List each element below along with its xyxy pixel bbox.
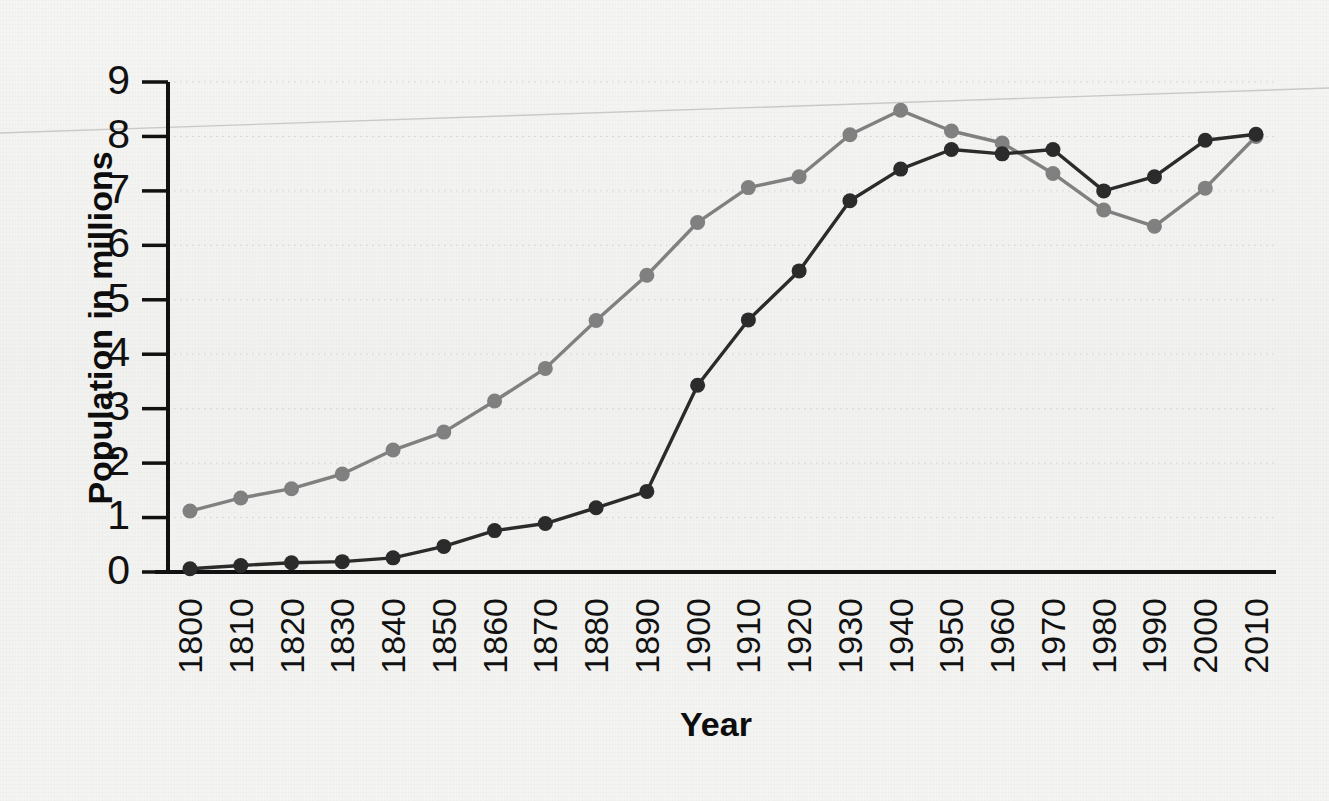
series-gray <box>183 103 1264 519</box>
x-tick-label: 1930 <box>831 598 869 674</box>
x-tick-label: 1960 <box>983 598 1021 674</box>
series-line <box>190 134 1256 568</box>
series-line <box>190 110 1256 511</box>
y-tick-label: 8 <box>107 111 130 157</box>
scan-artifact-icon <box>0 88 1329 133</box>
data-point-marker <box>1198 133 1213 148</box>
x-tick-label: 1900 <box>679 598 717 674</box>
population-line-chart: 0123456789 18001810182018301840185018601… <box>0 0 1329 801</box>
data-point-marker <box>233 558 248 573</box>
data-point-marker <box>538 516 553 531</box>
data-point-marker <box>690 215 705 230</box>
data-point-marker <box>792 169 807 184</box>
x-tick-label: 1840 <box>374 598 412 674</box>
data-point-marker <box>538 361 553 376</box>
data-point-marker <box>335 467 350 482</box>
data-point-marker <box>386 550 401 565</box>
data-point-marker <box>1147 219 1162 234</box>
data-point-marker <box>335 554 350 569</box>
y-axis-ticks <box>142 82 168 572</box>
data-point-marker <box>1045 166 1060 181</box>
x-tick-label: 1910 <box>729 598 767 674</box>
y-axis-title: Population in millions <box>81 151 119 504</box>
data-point-marker <box>741 312 756 327</box>
data-point-marker <box>589 500 604 515</box>
data-point-marker <box>995 146 1010 161</box>
x-tick-label: 1870 <box>526 598 564 674</box>
data-point-marker <box>639 268 654 283</box>
x-tick-label: 1830 <box>323 598 361 674</box>
data-point-marker <box>1198 181 1213 196</box>
x-tick-label: 1940 <box>882 598 920 674</box>
x-tick-label: 1920 <box>780 598 818 674</box>
data-point-marker <box>487 394 502 409</box>
x-tick-label: 1980 <box>1085 598 1123 674</box>
data-point-marker <box>842 193 857 208</box>
data-point-marker <box>1096 183 1111 198</box>
x-tick-label: 1950 <box>932 598 970 674</box>
data-point-marker <box>893 103 908 118</box>
data-point-marker <box>639 484 654 499</box>
data-point-marker <box>436 425 451 440</box>
x-axis-tick-labels: 1800181018201830184018501860187018801890… <box>171 598 1275 674</box>
data-point-marker <box>284 481 299 496</box>
data-point-marker <box>792 263 807 278</box>
x-axis-title: Year <box>680 705 752 743</box>
data-point-marker <box>944 142 959 157</box>
chart-canvas: 0123456789 18001810182018301840185018601… <box>0 0 1329 801</box>
x-axis: 1800181018201830184018501860187018801890… <box>155 572 1276 674</box>
data-point-marker <box>842 127 857 142</box>
data-point-marker <box>487 523 502 538</box>
data-point-marker <box>1096 202 1111 217</box>
data-point-marker <box>589 313 604 328</box>
data-point-marker <box>436 539 451 554</box>
x-tick-label: 1800 <box>171 598 209 674</box>
data-point-marker <box>893 162 908 177</box>
y-tick-label: 0 <box>107 547 130 593</box>
data-point-marker <box>741 180 756 195</box>
x-tick-label: 1970 <box>1034 598 1072 674</box>
data-point-marker <box>183 561 198 576</box>
data-point-marker <box>183 504 198 519</box>
x-tick-label: 2000 <box>1186 598 1224 674</box>
data-point-marker <box>690 378 705 393</box>
data-point-marker <box>386 443 401 458</box>
y-tick-label: 9 <box>107 57 130 103</box>
data-point-marker <box>1045 142 1060 157</box>
series-dark <box>183 127 1264 576</box>
x-tick-label: 1810 <box>222 598 260 674</box>
x-tick-label: 1820 <box>273 598 311 674</box>
x-tick-label: 2010 <box>1237 598 1275 674</box>
data-point-marker <box>1249 127 1264 142</box>
data-point-marker <box>944 124 959 139</box>
gridlines <box>168 82 1276 518</box>
data-point-marker <box>1147 169 1162 184</box>
x-tick-label: 1850 <box>425 598 463 674</box>
data-point-marker <box>233 490 248 505</box>
x-tick-label: 1990 <box>1135 598 1173 674</box>
x-tick-label: 1880 <box>577 598 615 674</box>
x-tick-label: 1890 <box>628 598 666 674</box>
x-tick-label: 1860 <box>476 598 514 674</box>
data-point-marker <box>284 555 299 570</box>
